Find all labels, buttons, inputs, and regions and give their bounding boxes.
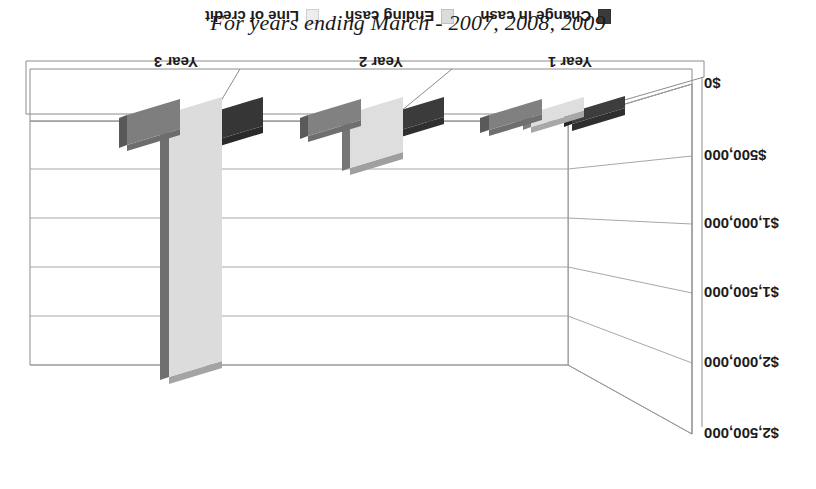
x-axis-tick-year-3: Year 3 (116, 54, 236, 71)
left-wall (568, 84, 692, 434)
x-axis-tick-year-1: Year 1 (510, 54, 630, 71)
chart-canvas-rotated: $2,500,000 $2,000,000 $1,500,000 $1,000,… (0, 0, 816, 489)
page-title: For years ending March - 2007, 2008, 200… (0, 10, 816, 36)
bar-year-3-ending-cash (160, 97, 222, 384)
back-wall (30, 121, 568, 365)
bar-chart-3d (0, 0, 816, 489)
x-axis-tick-year-2: Year 2 (321, 54, 441, 71)
